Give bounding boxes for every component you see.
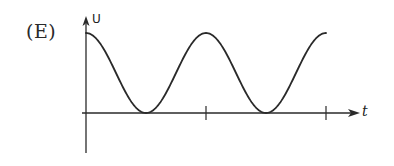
plot-area — [0, 0, 394, 166]
u-curve — [86, 33, 326, 113]
